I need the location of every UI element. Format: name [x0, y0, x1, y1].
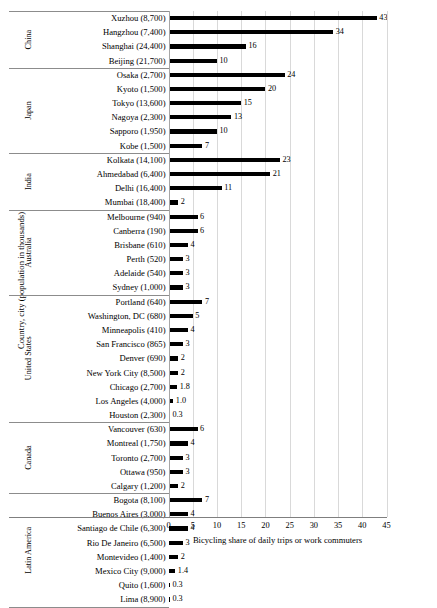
category-label: Kyoto (1,500) — [9, 82, 169, 96]
chart-row: Tokyo (13,600)15 — [0, 96, 437, 110]
category-label: Buenos Aires (3,000) — [9, 507, 169, 521]
chart-row: Lima (8,900)0.3 — [0, 592, 437, 606]
bar-value-label: 4 — [190, 238, 194, 252]
bar-value-label: 10 — [219, 124, 227, 138]
category-label: Rio De Janeiro (6,500) — [9, 536, 169, 550]
category-label: Canberra (190) — [9, 224, 169, 238]
bar-value-label: 34 — [336, 25, 344, 39]
chart-row: Montreal (1,750)4 — [0, 436, 437, 450]
bar — [169, 115, 232, 119]
bar-value-label: 1.8 — [180, 380, 190, 394]
bar-value-label: 15 — [244, 96, 252, 110]
bar-value-label: 4 — [190, 323, 194, 337]
bar-value-label: 3 — [186, 280, 190, 294]
chart-row: Adelaide (540)3 — [0, 266, 437, 280]
category-label: Osaka (2,700) — [9, 68, 169, 82]
bar-value-label: 6 — [200, 422, 204, 436]
bar — [169, 200, 179, 204]
bar-value-label: 6 — [200, 224, 204, 238]
bar — [169, 441, 188, 445]
category-label: New York City (8,500) — [9, 366, 169, 380]
bar — [169, 484, 179, 488]
category-label: Denver (690) — [9, 351, 169, 365]
category-label: Kobe (1,500) — [9, 139, 169, 153]
bar — [169, 30, 334, 34]
category-label: Xuzhou (8,700) — [9, 11, 169, 25]
category-label: Chicago (2,700) — [9, 380, 169, 394]
bar — [169, 427, 198, 431]
bar — [169, 257, 184, 261]
bar-value-label: 1.4 — [178, 564, 188, 578]
chart-row: Mexico City (9,000)1.4 — [0, 564, 437, 578]
chart-row: Sydney (1,000)3 — [0, 280, 437, 294]
chart-row: Kobe (1,500)7 — [0, 139, 437, 153]
bar — [169, 285, 184, 289]
bar-value-label: 2 — [181, 366, 185, 380]
bar — [169, 385, 178, 389]
bar — [169, 172, 271, 176]
category-label: Hangzhou (7,400) — [9, 25, 169, 39]
bar — [169, 342, 184, 346]
chart-row: Brisbane (610)4 — [0, 238, 437, 252]
bar — [169, 498, 203, 502]
category-label: Shanghai (24,400) — [9, 39, 169, 53]
chart-row: Kolkata (14,100)23 — [0, 153, 437, 167]
chart-row: Osaka (2,700)24 — [0, 68, 437, 82]
bar-value-label: 3 — [186, 252, 190, 266]
chart-row: San Francisco (865)3 — [0, 337, 437, 351]
bar-value-label: 2 — [181, 479, 185, 493]
category-label: Brisbane (610) — [9, 238, 169, 252]
category-label: Melbourne (940) — [9, 210, 169, 224]
category-label: Beijing (21,700) — [9, 54, 169, 68]
bar — [169, 569, 176, 573]
bar-value-label: 13 — [234, 110, 242, 124]
chart-row: Sapporo (1,950)10 — [0, 124, 437, 138]
bar — [169, 356, 179, 360]
bar-value-label: 10 — [219, 54, 227, 68]
bar — [169, 59, 217, 63]
category-label: Kolkata (14,100) — [9, 153, 169, 167]
bar-value-label: 2 — [181, 550, 185, 564]
chart-row: Ahmedabad (6,400)21 — [0, 167, 437, 181]
bar-value-label: 5 — [195, 309, 199, 323]
bar — [169, 314, 193, 318]
chart-row: Toronto (2,700)3 — [0, 451, 437, 465]
bar — [169, 73, 285, 77]
bar-value-label: 24 — [287, 68, 295, 82]
category-label: Montreal (1,750) — [9, 436, 169, 450]
bar-value-label: 7 — [205, 493, 209, 507]
bar — [169, 144, 203, 148]
bar — [169, 16, 377, 20]
bar-value-label: 0.3 — [172, 578, 182, 592]
chart-row: Perth (520)3 — [0, 252, 437, 266]
plot-right-border — [387, 11, 388, 517]
bar — [169, 87, 266, 91]
bar — [169, 512, 188, 516]
bar-value-label: 3 — [186, 337, 190, 351]
chart-row: Minneapolis (410)4 — [0, 323, 437, 337]
chart-row: Calgary (1,200)2 — [0, 479, 437, 493]
chart-row: Denver (690)2 — [0, 351, 437, 365]
bar — [169, 328, 188, 332]
category-label: Tokyo (13,600) — [9, 96, 169, 110]
bar-value-label: 11 — [224, 181, 232, 195]
chart-row: Melbourne (940)6 — [0, 210, 437, 224]
bar-value-label: 0.3 — [172, 592, 182, 606]
category-label: Delhi (16,400) — [9, 181, 169, 195]
category-label: Sapporo (1,950) — [9, 124, 169, 138]
category-label: Adelaide (540) — [9, 266, 169, 280]
chart-row: Chicago (2,700)1.8 — [0, 380, 437, 394]
category-label: Toronto (2,700) — [9, 451, 169, 465]
chart-row: Kyoto (1,500)20 — [0, 82, 437, 96]
category-label: Bogota (8,100) — [9, 493, 169, 507]
category-label: Mexico City (9,000) — [9, 564, 169, 578]
category-label: Nagoya (2,300) — [9, 110, 169, 124]
bar-value-label: 3 — [186, 465, 190, 479]
category-label: Portland (640) — [9, 295, 169, 309]
category-label: Sydney (1,000) — [9, 280, 169, 294]
bar-value-label: 6 — [200, 210, 204, 224]
category-label: Calgary (1,200) — [9, 479, 169, 493]
category-label: Washington, DC (680) — [9, 309, 169, 323]
